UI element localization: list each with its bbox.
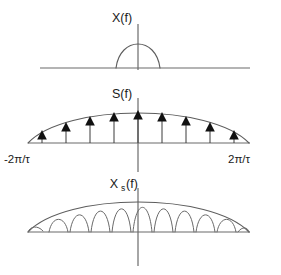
tick-label-right-two-pi-over-tau: 2π/τ [228, 153, 251, 165]
impulse-arrow [205, 122, 215, 143]
replica-lobe [70, 215, 89, 232]
impulse-arrow [85, 116, 95, 143]
tick-label-left-negative-two-pi-over-tau: -2π/τ [4, 153, 30, 165]
replica-lobe [133, 207, 152, 232]
impulse-arrow [157, 112, 167, 143]
replica-lobe [112, 209, 131, 232]
replica-lobe [154, 209, 173, 232]
panel-label-x-of-f: X(f) [112, 11, 132, 25]
impulse-arrow [133, 110, 143, 143]
impulse-arrow [37, 130, 47, 143]
panel-label-xs-of-f-tail: (f) [126, 177, 138, 191]
replica-lobe [91, 211, 110, 232]
panel-label-xs-of-f-main: X [110, 177, 119, 191]
impulse-arrow [109, 112, 119, 143]
replica-lobe [49, 219, 68, 232]
panel-top-spectrum: X(f) [40, 11, 250, 68]
replica-lobe [175, 211, 194, 232]
signal-spectrum-diagram: X(f) [0, 0, 281, 275]
impulse-train [37, 110, 239, 143]
impulse-arrow [181, 116, 191, 143]
panel-middle-sampling: S(f) -2π/τ 2π/τ [4, 87, 251, 165]
panel-label-s-of-f: S(f) [112, 87, 132, 101]
impulse-arrow [229, 130, 239, 143]
panel-bottom-sampled-spectrum: X s (f) [28, 177, 250, 232]
replica-lobe [217, 219, 236, 232]
replica-lobe [196, 215, 215, 232]
impulse-arrow [61, 122, 71, 143]
panel-label-xs-of-f-subscript: s [121, 183, 125, 193]
figure-root: X(f) [0, 0, 281, 275]
